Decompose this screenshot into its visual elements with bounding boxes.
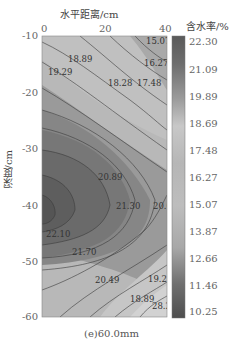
colorbar-tick: 16.27 [189, 172, 218, 183]
svg-text:22.10: 22.10 [46, 229, 70, 239]
svg-text:21.30: 21.30 [116, 201, 140, 211]
colorbar-tick: 11.46 [189, 280, 218, 291]
colorbar-tick: 18.69 [189, 118, 218, 129]
colorbar-tick: 22.30 [189, 36, 218, 47]
svg-text:19.29: 19.29 [48, 67, 72, 77]
colorbar-tick: 17.48 [189, 145, 218, 156]
colorbar-tick: 10.25 [189, 306, 218, 317]
svg-text:20.89: 20.89 [98, 172, 122, 182]
svg-text:15.07: 15.07 [146, 36, 170, 46]
svg-text:21.70: 21.70 [72, 247, 96, 257]
colorbar-tick: 13.87 [189, 226, 218, 237]
figure-caption: (e)60.0mm [84, 328, 139, 339]
colorbar-title: 含水率/% [186, 18, 229, 33]
colorbar-tick: 15.07 [189, 199, 218, 210]
svg-text:18.89: 18.89 [68, 54, 92, 64]
svg-text:18.28: 18.28 [108, 78, 132, 88]
svg-text:16.27: 16.27 [144, 58, 168, 68]
colorbar-tick: 21.09 [189, 64, 218, 75]
colorbar-tick: 12.66 [189, 253, 218, 264]
svg-text:19.29: 19.29 [148, 274, 172, 284]
colorbar-tick: 19.89 [189, 91, 218, 102]
svg-text:17.48: 17.48 [137, 78, 161, 88]
svg-text:18.89: 18.89 [130, 294, 154, 304]
colorbar [172, 36, 185, 318]
svg-text:20.49: 20.49 [95, 275, 119, 285]
